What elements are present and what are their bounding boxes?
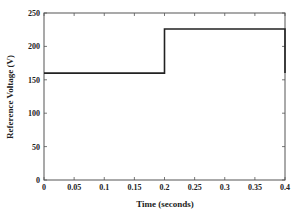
y-tick-label: 200 (28, 42, 40, 51)
y-tick-label: 150 (28, 76, 40, 85)
x-tick-label: 0.35 (248, 183, 262, 192)
y-tick-label: 250 (28, 9, 40, 18)
y-tick-label: 50 (32, 143, 40, 152)
x-tick-label: 0.15 (127, 183, 141, 192)
y-tick-label: 100 (28, 109, 40, 118)
x-tick-label: 0.25 (188, 183, 202, 192)
y-tick-label: 0 (36, 176, 40, 185)
x-tick-label: 0.3 (220, 183, 230, 192)
x-tick-label: 0 (42, 183, 46, 192)
x-tick-label: 0.2 (160, 183, 170, 192)
y-axis-label: Reference Voltage (V) (5, 55, 15, 139)
x-axis-label: Time (seconds) (136, 199, 194, 209)
reference-voltage-chart: 00.050.10.150.20.250.30.350.405010015020… (0, 0, 305, 215)
x-tick-label: 0.1 (99, 183, 109, 192)
x-tick-label: 0.05 (67, 183, 81, 192)
x-tick-label: 0.4 (280, 183, 290, 192)
